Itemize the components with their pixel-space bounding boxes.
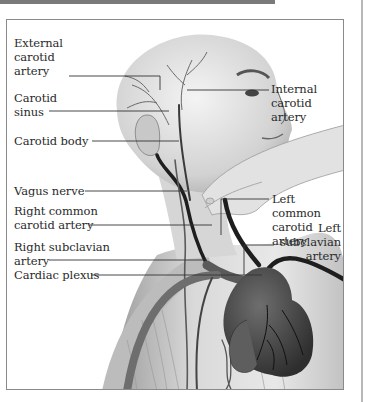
label-carotid-body: Carotid body	[14, 134, 88, 148]
label-vagus-nerve: Vagus nerve	[14, 184, 84, 198]
label-carotid-sinus: Carotid sinus	[14, 91, 57, 119]
label-internal-carotid-artery: Internal carotid artery	[271, 82, 317, 124]
label-right-subclavian-artery: Right subclavian artery	[14, 240, 110, 268]
label-external-carotid-artery: External carotid artery	[14, 36, 63, 78]
header-rule	[0, 0, 275, 4]
figure-frame: External carotid artery Carotid sinus Ca…	[6, 19, 344, 390]
label-right-common-carotid-artery: Right common carotid artery	[14, 204, 98, 232]
label-left-subclavian-artery: Left subclavian artery	[277, 221, 341, 263]
page-margin-rule	[361, 0, 363, 402]
label-cardiac-plexus: Cardiac plexus	[14, 268, 99, 282]
